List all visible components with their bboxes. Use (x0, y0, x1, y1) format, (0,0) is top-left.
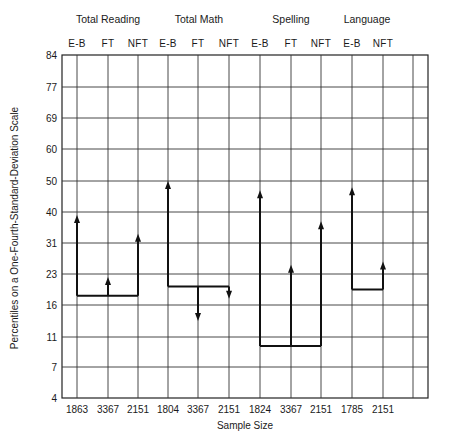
arrow-up-icon (288, 265, 294, 273)
arrow-group-total-reading (74, 215, 141, 296)
plot-area (0, 0, 450, 448)
arrow-down-icon (226, 291, 232, 299)
arrow-up-icon (318, 221, 324, 229)
arrow-down-icon (195, 313, 201, 321)
arrow-up-icon (105, 277, 111, 285)
arrow-group-spelling (257, 190, 324, 346)
arrow-up-icon (135, 234, 141, 242)
arrow-group-total-math (165, 181, 232, 321)
arrow-up-icon (380, 262, 386, 270)
arrow-series (74, 181, 386, 346)
arrow-up-icon (257, 190, 263, 198)
plot-frame (62, 55, 428, 398)
arrow-up-icon (74, 215, 80, 223)
arrow-up-icon (165, 181, 171, 189)
grid-lines (62, 55, 428, 398)
arrow-up-icon (349, 187, 355, 195)
